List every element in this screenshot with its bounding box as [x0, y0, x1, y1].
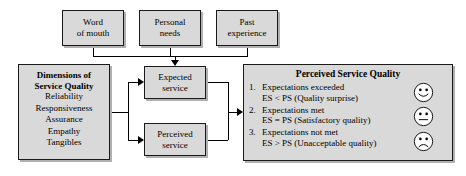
- dimensions-heading-line2: Service Quality: [34, 81, 93, 92]
- dimensions-heading-line1: Dimensions of: [37, 70, 91, 81]
- box-personal-needs-line2: needs: [160, 28, 181, 39]
- neutral-face-icon: [413, 106, 434, 127]
- box-dimensions-of-service-quality: Dimensions of Service Quality Reliabilit…: [18, 64, 110, 160]
- connector-expected-out: [206, 82, 228, 83]
- box-personal-needs: Personal needs: [139, 10, 201, 46]
- connector-past-drop: [247, 46, 248, 56]
- box-word-of-mouth-line1: Word: [83, 17, 103, 28]
- sad-face-icon: [413, 131, 434, 152]
- dimension-item-reliability: Reliability: [45, 91, 83, 103]
- connector-word-drop: [93, 46, 94, 56]
- outcome-item-1-number: 1.: [249, 82, 256, 93]
- box-word-of-mouth-line2: of mouth: [77, 28, 110, 39]
- dimension-item-responsiveness: Responsiveness: [36, 103, 93, 115]
- box-word-of-mouth: Word of mouth: [62, 10, 124, 46]
- box-past-experience-line1: Past: [239, 17, 254, 28]
- outcome-item-2-number: 2.: [249, 105, 256, 116]
- outcome-item-3-number: 3.: [249, 127, 256, 138]
- dimension-item-assurance: Assurance: [45, 114, 83, 126]
- connector-split-vertical: [128, 82, 129, 140]
- connector-merge-vertical: [228, 82, 229, 140]
- connector-perceived-out: [206, 140, 228, 141]
- connector-personal-drop: [170, 46, 171, 56]
- box-past-experience: Past experience: [216, 10, 278, 46]
- connector-top-bus: [93, 56, 248, 57]
- happy-face-icon: [413, 82, 434, 103]
- box-expected-service-line2: service: [162, 83, 187, 94]
- panel-title: Perceived Service Quality: [244, 69, 452, 80]
- dimension-item-tangibles: Tangibles: [47, 137, 82, 149]
- service-quality-diagram: Word of mouth Personal needs Past experi…: [0, 0, 466, 176]
- box-past-experience-line2: experience: [228, 28, 267, 39]
- box-perceived-service-line1: Perceived: [157, 129, 192, 140]
- box-perceived-service-line2: service: [162, 140, 187, 151]
- box-expected-service-line1: Expected: [158, 72, 191, 83]
- box-personal-needs-line1: Personal: [155, 17, 186, 28]
- box-perceived-service: Perceived service: [144, 123, 206, 156]
- connector-dimensions-out: [110, 112, 128, 113]
- box-expected-service: Expected service: [144, 66, 206, 99]
- dimension-item-empathy: Empathy: [48, 126, 81, 138]
